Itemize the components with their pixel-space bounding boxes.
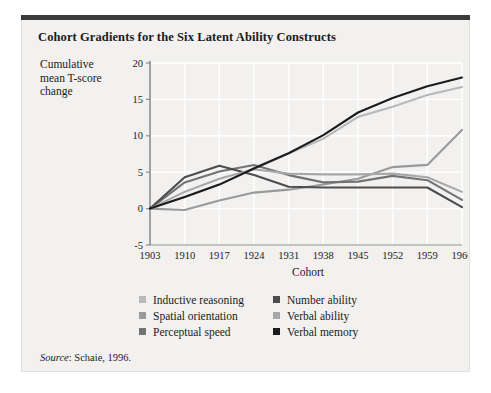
legend-item-label: Inductive reasoning <box>153 294 244 306</box>
legend-swatch-icon <box>273 296 280 303</box>
page-title: Cohort Gradients for the Six Latent Abil… <box>38 30 458 45</box>
source-citation: : Schaie, 1996. <box>69 352 131 363</box>
series-line <box>150 130 462 210</box>
legend-item-label: Number ability <box>287 294 357 306</box>
line-chart: -505101520 19031910191719241931193819451… <box>108 55 468 285</box>
data-series-layer <box>150 78 462 211</box>
legend-item[interactable]: Perceptual speed <box>139 324 273 340</box>
svg-text:1931: 1931 <box>278 250 299 261</box>
source-label: Source <box>40 352 69 363</box>
svg-text:1924: 1924 <box>244 250 266 261</box>
legend-item[interactable]: Spatial orientation <box>139 308 273 324</box>
legend-item[interactable]: Verbal ability <box>273 308 423 324</box>
svg-text:20: 20 <box>133 58 144 69</box>
axis-lines <box>146 61 462 245</box>
svg-text:1910: 1910 <box>174 250 195 261</box>
svg-text:1966: 1966 <box>452 250 469 261</box>
svg-text:1959: 1959 <box>417 250 438 261</box>
y-tick-labels: -505101520 <box>133 58 144 251</box>
svg-text:1903: 1903 <box>140 250 161 261</box>
svg-text:15: 15 <box>133 94 144 105</box>
x-axis-title: Cohort <box>148 266 468 278</box>
series-line <box>150 78 462 209</box>
chart-svg: -505101520 19031910191719241931193819451… <box>108 55 468 285</box>
svg-text:1945: 1945 <box>348 250 369 261</box>
series-line <box>150 169 462 208</box>
legend-item-label: Verbal memory <box>287 326 358 338</box>
legend-item[interactable]: Verbal memory <box>273 324 423 340</box>
legend-swatch-icon <box>139 296 146 303</box>
svg-text:1938: 1938 <box>313 250 334 261</box>
legend-item-label: Perceptual speed <box>153 326 231 338</box>
svg-text:-5: -5 <box>134 240 143 251</box>
svg-text:1952: 1952 <box>382 250 403 261</box>
legend-item-label: Verbal ability <box>287 310 349 322</box>
legend-item[interactable]: Inductive reasoning <box>139 292 273 308</box>
source-note: Source: Schaie, 1996. <box>40 352 131 363</box>
svg-text:5: 5 <box>138 167 143 178</box>
legend-swatch-icon <box>273 312 280 319</box>
figure-page: Cohort Gradients for the Six Latent Abil… <box>0 0 491 393</box>
legend-swatch-icon <box>139 328 146 335</box>
legend-swatch-icon <box>139 312 146 319</box>
chart-legend: Inductive reasoningSpatial orientationPe… <box>139 292 439 340</box>
svg-text:10: 10 <box>133 130 144 141</box>
legend-swatch-icon <box>273 328 280 335</box>
legend-item[interactable]: Number ability <box>273 292 423 308</box>
legend-item-label: Spatial orientation <box>153 310 238 322</box>
series-line <box>150 87 462 209</box>
svg-text:0: 0 <box>138 203 143 214</box>
x-tick-labels: 1903191019171924193119381945195219591966 <box>140 250 469 261</box>
legend-column-left: Inductive reasoningSpatial orientationPe… <box>139 292 273 340</box>
svg-text:1917: 1917 <box>209 250 230 261</box>
legend-column-right: Number abilityVerbal abilityVerbal memor… <box>273 292 423 340</box>
